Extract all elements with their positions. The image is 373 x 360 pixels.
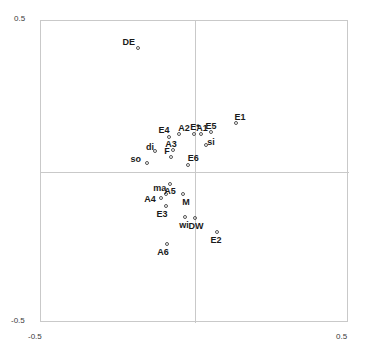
data-point-label: A5 — [164, 186, 176, 195]
data-point-label: di — [146, 142, 154, 151]
data-point — [234, 121, 238, 125]
data-point — [215, 230, 219, 234]
data-point — [177, 132, 181, 136]
data-point — [193, 216, 197, 220]
data-point — [164, 204, 168, 208]
x-axis-tick-right: 0.5 — [336, 332, 347, 341]
data-point — [169, 155, 173, 159]
data-point — [181, 192, 185, 196]
data-point-label: so — [131, 155, 142, 164]
data-point — [145, 161, 149, 165]
data-point — [192, 132, 196, 136]
data-point-label: E5 — [206, 122, 217, 131]
y-axis-tick-bottom: -0.5 — [11, 316, 25, 325]
data-point-label: E3 — [157, 210, 168, 219]
data-point-label: DW — [188, 222, 203, 231]
data-point-label: M — [182, 197, 190, 206]
data-point-label: A4 — [144, 195, 156, 204]
data-point — [159, 196, 163, 200]
x-axis-tick-left: -0.5 — [28, 332, 42, 341]
data-point — [183, 215, 187, 219]
data-point — [165, 242, 169, 246]
data-point-label: DE — [123, 38, 136, 47]
data-point-label: F — [164, 147, 170, 156]
horizontal-zero-axis — [41, 172, 349, 173]
data-point-label: E2 — [210, 235, 221, 244]
data-point-label: E6 — [188, 154, 199, 163]
data-point-label: wi — [179, 221, 189, 230]
data-point — [186, 163, 190, 167]
data-point-label: A6 — [157, 247, 169, 256]
data-point — [199, 132, 203, 136]
data-point-label: A2 — [178, 123, 190, 132]
data-point-label: E4 — [158, 126, 169, 135]
data-point — [171, 148, 175, 152]
data-point-label: E1 — [234, 113, 245, 122]
scatter-plot: DEE4A2E*A1E5E1sidiA3FsoE6maA5A4ME3wiDWE2… — [0, 0, 373, 360]
y-axis-tick-top: 0.5 — [14, 14, 25, 23]
plot-frame: DEE4A2E*A1E5E1sidiA3FsoE6maA5A4ME3wiDWE2… — [40, 20, 348, 322]
data-point-label: si — [207, 137, 215, 146]
data-point — [136, 46, 140, 50]
